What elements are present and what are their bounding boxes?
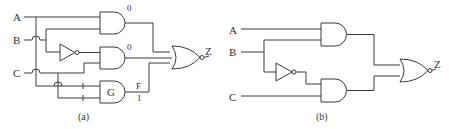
wire-and2-out (347, 76, 400, 91)
input-label-c: C (13, 67, 20, 79)
diagram-a: A B C 0 0 G F 1 (13, 3, 212, 123)
wire-c-to-g (58, 86, 100, 98)
and-gate-2 (321, 79, 346, 102)
wire-c (24, 63, 100, 73)
and-gate-1 (100, 12, 125, 34)
caption-a: (a) (78, 111, 89, 123)
not-gate (276, 63, 292, 81)
wire-b-to-not (46, 40, 60, 52)
and2-value: 0 (127, 42, 132, 52)
output-label-z: Z (205, 45, 212, 57)
gate-g-output-value: 1 (137, 93, 142, 103)
nor-gate (172, 46, 200, 69)
circuit-diagrams: A B C 0 0 G F 1 (0, 0, 449, 129)
and-gate-1 (321, 23, 347, 46)
gate-g-label: G (107, 86, 115, 98)
not-bubble (292, 70, 296, 74)
input-label-c: C (229, 91, 236, 103)
nor-bubble (428, 69, 432, 73)
not-gate (60, 44, 75, 61)
nor-bubble (200, 56, 204, 60)
wire-g-out (125, 63, 170, 92)
input-label-b: B (13, 34, 20, 46)
and1-value: 0 (127, 3, 132, 13)
wire-not-out (296, 72, 321, 84)
wire-b (24, 29, 100, 40)
input-label-b: B (229, 46, 236, 58)
wire-and1-out (125, 23, 170, 52)
diagram-b: A B C Z (b) (229, 23, 441, 123)
wire-and1-out (347, 35, 400, 66)
output-label-z: Z (434, 58, 441, 70)
input-label-a: A (229, 24, 237, 36)
nor-gate (400, 59, 428, 82)
and-gate-2 (100, 47, 125, 69)
wire-b-vertical (264, 40, 276, 72)
gate-g-output-label: F (136, 81, 141, 91)
input-label-a: A (13, 11, 21, 23)
not-bubble (75, 51, 79, 55)
caption-b: (b) (316, 111, 328, 123)
